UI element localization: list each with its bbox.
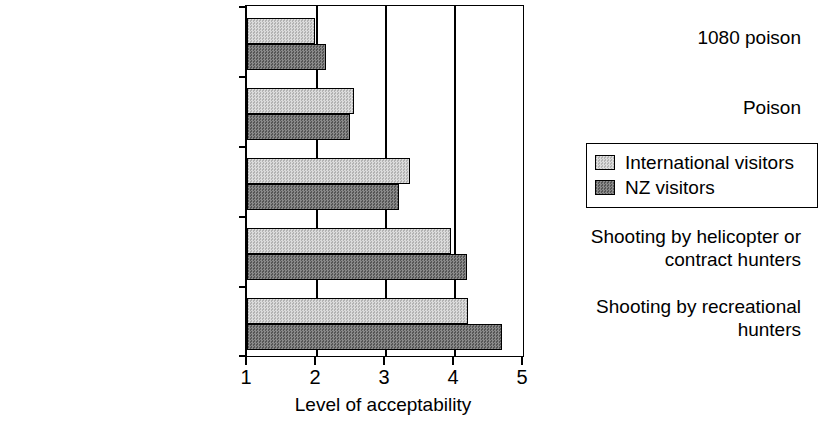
- legend-swatch-icon: [595, 155, 615, 170]
- category-label-line2: hunters: [574, 318, 801, 341]
- category-label-shooting-helicopter: Shooting by helicopter or contract hunte…: [574, 225, 810, 271]
- category-label-line1: Shooting by helicopter or: [574, 225, 801, 248]
- x-tick-label-3: 3: [364, 365, 404, 389]
- category-label-shooting-recreational: Shooting by recreational hunters: [574, 295, 810, 341]
- bar-group-poison: [247, 76, 523, 146]
- plot-area: [245, 5, 524, 357]
- category-label-line1: Shooting by recreational: [574, 295, 801, 318]
- bar-nz-visitors: [247, 254, 467, 280]
- x-tick-4: [452, 357, 454, 365]
- y-tick-4: [239, 286, 247, 288]
- category-label-line2: contract hunters: [574, 248, 801, 271]
- category-label-line1: Poison: [574, 96, 801, 119]
- bar-nz-visitors: [247, 324, 502, 350]
- bar-group-biological-control: [247, 146, 523, 216]
- y-tick-0: [239, 6, 247, 8]
- bar-group-shooting-helicopter: [247, 216, 523, 286]
- x-tick-label-5: 5: [502, 365, 542, 389]
- x-tick-3: [383, 357, 385, 365]
- x-tick-1: [245, 357, 247, 365]
- y-tick-1: [239, 76, 247, 78]
- y-tick-3: [239, 216, 247, 218]
- legend-item-nz-visitors: NZ visitors: [595, 175, 809, 200]
- bar-nz-visitors: [247, 184, 399, 210]
- legend: International visitors NZ visitors: [586, 143, 818, 208]
- y-tick-2: [239, 146, 247, 148]
- x-tick-2: [314, 357, 316, 365]
- category-label-line1: 1080 poison: [574, 26, 801, 49]
- legend-label: NZ visitors: [625, 177, 715, 199]
- bar-nz-visitors: [247, 44, 326, 70]
- x-tick-5: [521, 357, 523, 365]
- x-tick-label-2: 2: [295, 365, 335, 389]
- x-tick-label-4: 4: [433, 365, 473, 389]
- bar-international-visitors: [247, 228, 451, 254]
- bar-international-visitors: [247, 88, 354, 114]
- bar-nz-visitors: [247, 114, 350, 140]
- legend-item-international-visitors: International visitors: [595, 150, 809, 175]
- bar-international-visitors: [247, 158, 410, 184]
- legend-swatch-icon: [595, 180, 615, 195]
- bar-group-shooting-recreational: [247, 286, 523, 356]
- bar-international-visitors: [247, 18, 315, 44]
- x-axis-title: Level of acceptability: [245, 394, 521, 416]
- category-label-poison: Poison: [574, 96, 810, 119]
- bar-group-1080-poison: [247, 6, 523, 76]
- x-tick-label-1: 1: [226, 365, 266, 389]
- bar-international-visitors: [247, 298, 468, 324]
- category-label-1080-poison: 1080 poison: [574, 26, 810, 49]
- legend-label: International visitors: [625, 152, 794, 174]
